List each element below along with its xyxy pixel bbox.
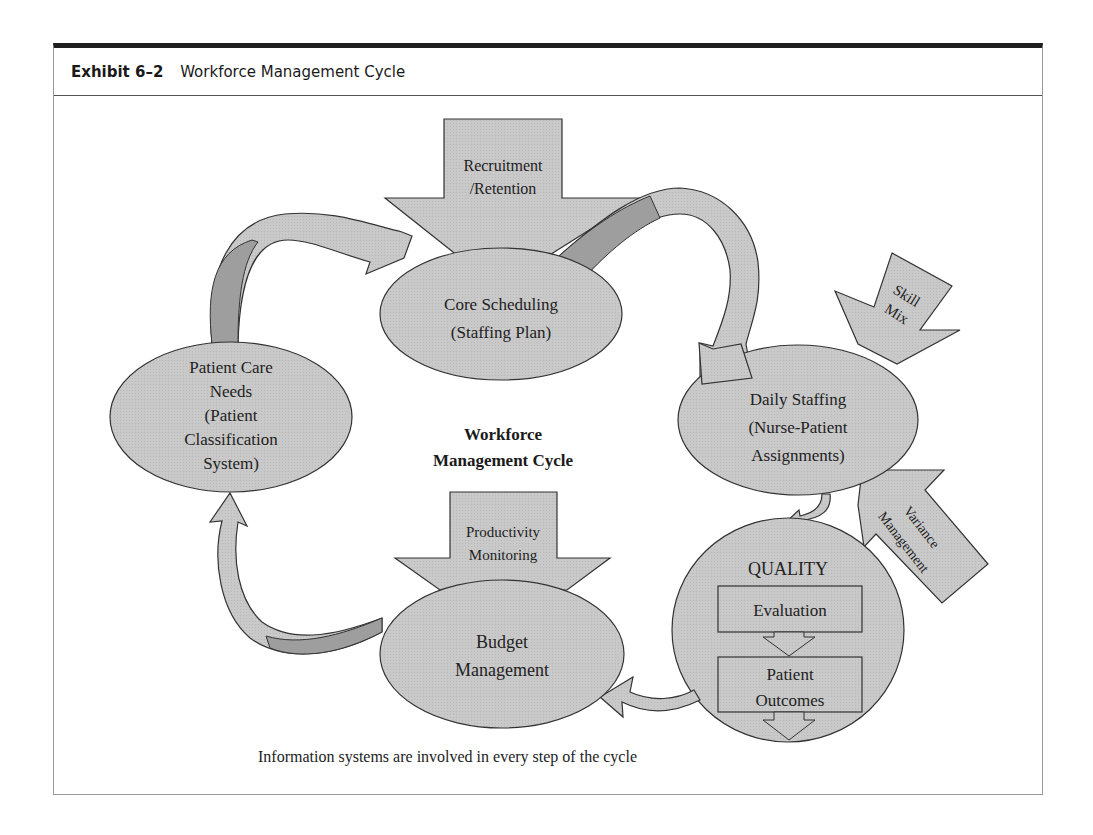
node-patient-care-needs: Patient Care Needs (Patient Classificati… [110, 342, 352, 492]
outcomes-label: Outcomes [756, 691, 825, 710]
needs-label: Needs [210, 382, 252, 401]
quality-title: QUALITY [748, 559, 828, 579]
patient-outcomes-box: Patient Outcomes [718, 657, 862, 712]
diagram-caption: Information systems are involved in ever… [258, 748, 637, 766]
nurse-patient-label: (Nurse-Patient [748, 418, 847, 437]
center-title-line2: Management Cycle [433, 451, 574, 470]
daily-staffing-label: Daily Staffing [750, 390, 847, 409]
workforce-cycle-diagram: Recruitment /Retention Skill Mix Varianc… [0, 0, 1093, 835]
budget-label: Budget [476, 632, 528, 652]
monitoring-label: Monitoring [469, 547, 538, 563]
system-label: System) [203, 454, 259, 473]
center-title-line1: Workforce [464, 425, 543, 444]
node-budget-management: Budget Management [380, 580, 624, 728]
skill-mix-arrow: Skill Mix [835, 253, 960, 364]
node-core-scheduling: Core Scheduling (Staffing Plan) [380, 248, 622, 380]
arrow-quality-to-budget [600, 677, 700, 717]
node-daily-staffing: Daily Staffing (Nurse-Patient Assignment… [678, 343, 918, 495]
arrow-budget-to-patient-care [210, 493, 382, 654]
patient-paren-label: (Patient [205, 406, 258, 425]
node-quality: QUALITY Evaluation Patient Outcomes [672, 518, 904, 742]
productivity-label: Productivity [466, 524, 541, 540]
recruitment-label: Recruitment [463, 157, 543, 174]
patient-care-label: Patient Care [189, 358, 273, 377]
evaluation-box: Evaluation [718, 586, 862, 632]
assignments-label: Assignments) [751, 446, 845, 465]
patient-label: Patient [766, 665, 813, 684]
productivity-arrow: Productivity Monitoring [395, 492, 610, 590]
core-scheduling-label: Core Scheduling [444, 295, 558, 314]
retention-label: /Retention [470, 180, 537, 197]
management-label: Management [455, 660, 549, 680]
classification-label: Classification [184, 430, 278, 449]
center-title: Workforce Management Cycle [433, 425, 574, 470]
evaluation-label: Evaluation [753, 601, 827, 620]
staffing-plan-label: (Staffing Plan) [451, 323, 551, 342]
